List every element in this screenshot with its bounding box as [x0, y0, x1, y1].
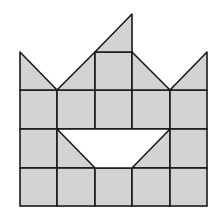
top-shapes — [20, 14, 207, 90]
left-center-triangle — [57, 52, 95, 90]
grid-cell — [20, 168, 57, 206]
grid-cell — [57, 90, 95, 129]
top-triangle — [95, 14, 132, 52]
right-triangle — [170, 52, 207, 90]
grid-cell — [170, 90, 207, 129]
grid-cell — [95, 90, 132, 129]
grid-cell — [20, 90, 57, 129]
grid-cell — [170, 129, 207, 168]
grid-cell — [132, 90, 170, 129]
right-center-triangle — [132, 52, 170, 90]
center-square — [95, 52, 132, 90]
grid-cell — [170, 168, 207, 206]
tangram-crown-figure — [0, 0, 221, 220]
left-triangle — [20, 52, 57, 90]
grid-cell — [57, 168, 95, 206]
grid-cell — [132, 168, 170, 206]
grid-cell — [20, 129, 57, 168]
grid-cell — [95, 168, 132, 206]
